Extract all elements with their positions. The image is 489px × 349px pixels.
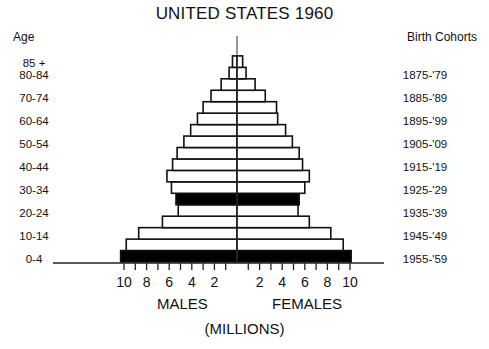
bar-female-20-24 <box>237 205 298 216</box>
bar-male-75-79 <box>221 79 237 90</box>
x-tick-label-right: 8 <box>324 274 332 290</box>
cohort-label: 1935-'39 <box>385 207 465 219</box>
bar-female-5-9 <box>237 239 343 250</box>
x-tick-label-left: 10 <box>116 274 132 290</box>
x-tick-label-left: 8 <box>143 274 151 290</box>
age-label: 60-64 <box>8 115 60 127</box>
bar-male-60-64 <box>197 113 237 124</box>
age-label: 40-44 <box>8 161 60 173</box>
x-tick-label-right: 10 <box>342 274 358 290</box>
cohort-label: 1905-'09 <box>385 138 465 150</box>
age-label: 85 + <box>8 57 60 69</box>
bar-female-30-34 <box>237 182 305 193</box>
bar-male-55-59 <box>191 125 237 136</box>
bar-male-30-34 <box>171 182 237 193</box>
x-axis-title: (MILLIONS) <box>0 320 489 337</box>
cohort-label: 1885-'89 <box>385 92 465 104</box>
population-pyramid: 108642246810 <box>0 0 489 349</box>
age-label: 70-74 <box>8 92 60 104</box>
bar-female-60-64 <box>237 113 278 124</box>
bar-male-25-29 <box>176 193 237 204</box>
x-tick-label-left: 2 <box>211 274 219 290</box>
bar-male-65-69 <box>203 102 237 113</box>
bar-female-70-74 <box>237 90 265 101</box>
age-label: 50-54 <box>8 138 60 150</box>
cohort-label: 1915-'19 <box>385 161 465 173</box>
bar-female-80-84 <box>237 67 246 78</box>
bar-female-45-49 <box>237 148 299 159</box>
x-tick-label-right: 2 <box>256 274 264 290</box>
bar-female-35-39 <box>237 170 309 181</box>
cohort-label: 1875-'79 <box>385 69 465 81</box>
bar-male-70-74 <box>211 90 237 101</box>
age-label: 0-4 <box>8 253 60 265</box>
bar-female-15-19 <box>237 216 309 227</box>
females-label: FEMALES <box>272 295 342 312</box>
bar-male-45-49 <box>177 148 237 159</box>
bar-female-55-59 <box>237 125 286 136</box>
x-tick-label-right: 4 <box>278 274 286 290</box>
males-label: MALES <box>157 295 208 312</box>
cohort-label: 1925-'29 <box>385 184 465 196</box>
cohort-label: 1945-'49 <box>385 230 465 242</box>
cohort-label: 1895-'99 <box>385 115 465 127</box>
bar-female-75-79 <box>237 79 255 90</box>
bar-female-50-54 <box>237 136 292 147</box>
bar-female-40-44 <box>237 159 303 170</box>
bar-female-0-4 <box>237 251 351 262</box>
cohort-label: 1955-'59 <box>385 253 465 265</box>
x-tick-label-right: 6 <box>301 274 309 290</box>
x-tick-label-left: 6 <box>165 274 173 290</box>
bar-female-10-14 <box>237 228 331 239</box>
age-label: 10-14 <box>8 230 60 242</box>
bar-male-20-24 <box>178 205 237 216</box>
age-label: 30-34 <box>8 184 60 196</box>
bar-male-15-19 <box>162 216 237 227</box>
bar-male-0-4 <box>121 251 237 262</box>
bar-male-5-9 <box>126 239 237 250</box>
bar-male-80-84 <box>229 67 237 78</box>
bar-male-10-14 <box>139 228 237 239</box>
bar-female-65-69 <box>237 102 277 113</box>
bar-male-50-54 <box>184 136 237 147</box>
bar-female-85+ <box>237 56 243 67</box>
bar-female-25-29 <box>237 193 299 204</box>
bar-male-40-44 <box>173 159 237 170</box>
bar-male-35-39 <box>167 170 237 181</box>
x-tick-label-left: 4 <box>188 274 196 290</box>
age-label: 80-84 <box>8 69 60 81</box>
age-label: 20-24 <box>8 207 60 219</box>
